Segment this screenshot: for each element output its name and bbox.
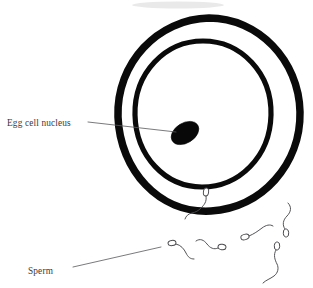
egg-nucleus-label: Egg cell nucleus [7, 118, 71, 128]
egg-cell [118, 18, 300, 219]
sperm-4-tail [283, 203, 290, 229]
sperm-1 [168, 240, 194, 259]
egg-nucleus-leader-line [88, 122, 176, 132]
diagram-canvas: Egg cell nucleus Sperm [0, 0, 313, 288]
sperm-4 [283, 203, 291, 237]
sperm-2-tail [196, 240, 218, 249]
sperm-5-head [274, 242, 280, 251]
sperm-1-head [168, 240, 177, 246]
sperm-group [168, 203, 291, 283]
sperm-4-head [283, 229, 289, 238]
sperm-2-head [218, 244, 227, 251]
sperm-1-tail [176, 244, 194, 259]
egg-cell-nucleus [167, 117, 203, 150]
sperm-leader-line [73, 247, 161, 267]
sperm-3 [240, 225, 273, 241]
sperm-5-tail [263, 250, 278, 283]
sperm-3-head [240, 233, 249, 240]
penetrating-sperm-head [203, 188, 209, 197]
sperm-label: Sperm [28, 266, 54, 276]
egg-inner-membrane-ring [135, 41, 271, 187]
scan-smudge [132, 2, 224, 9]
sperm-5 [263, 242, 280, 283]
fertilization-diagram: Egg cell nucleus Sperm [0, 0, 313, 288]
sperm-3-tail [249, 225, 273, 236]
sperm-2 [196, 240, 226, 251]
